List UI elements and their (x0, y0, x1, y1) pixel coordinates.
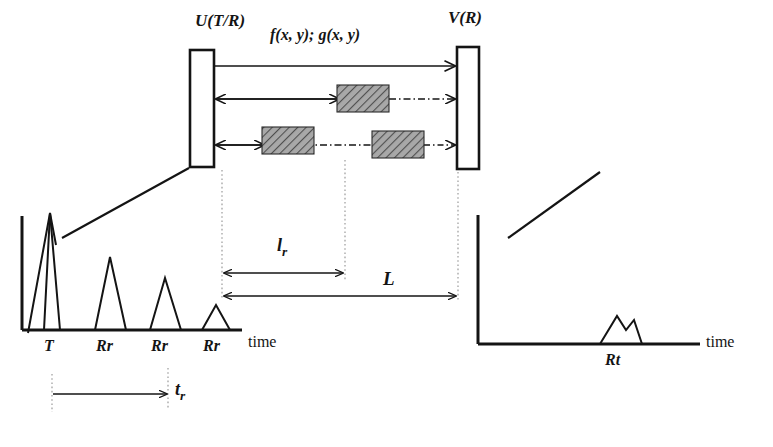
right-trace-axis-label-time: time (706, 333, 734, 351)
left-trace-chart (22, 213, 242, 333)
figure-canvas: U(T/R) V(R) f(x, y); g(x, y) lr L tr T R… (0, 0, 773, 447)
dimension-label-lr: lr (277, 235, 287, 260)
left-trace-tick-Rr-3: Rr (203, 337, 220, 355)
transducer-v-label: V(R) (448, 8, 482, 28)
left-trace-axis-label-time: time (248, 333, 276, 351)
leader-line-right (508, 172, 600, 238)
transducer-v-body (457, 47, 479, 169)
transducer-u-body (190, 50, 214, 167)
left-trace-tick-Rr-1: Rr (96, 337, 113, 355)
dimension-label-tr: tr (175, 379, 185, 404)
target-lower-1 (262, 127, 314, 154)
left-trace-tick-T: T (44, 337, 54, 355)
signal-function-label: f(x, y); g(x, y) (270, 26, 360, 44)
lr-subscript: r (282, 244, 287, 259)
leader-line-left (62, 168, 189, 238)
transducer-u-label: U(T/R) (195, 11, 245, 31)
target-lower-2 (372, 131, 424, 158)
left-trace-peak-Rr-1 (95, 257, 126, 330)
right-trace-peak-Rt (600, 316, 642, 344)
left-trace-peak-Rr-3 (202, 305, 230, 330)
left-trace-tick-Rr-2: Rr (151, 337, 168, 355)
diagram-vector-layer (0, 0, 773, 447)
left-trace-peak-Rr-2 (150, 278, 181, 330)
right-trace-tick-Rt: Rt (605, 351, 620, 369)
dimension-label-L: L (383, 268, 395, 290)
target-upper-1 (337, 85, 389, 112)
tr-subscript: r (180, 388, 185, 403)
